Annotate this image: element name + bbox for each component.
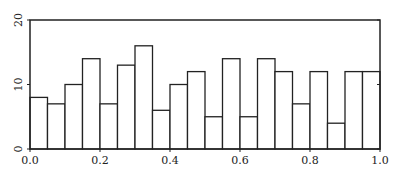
- histogram-bar: [258, 59, 276, 149]
- y-tick-label: 20: [12, 13, 25, 27]
- histogram-bar: [275, 72, 293, 149]
- x-tick-label: 1.0: [371, 154, 389, 167]
- histogram-bar: [65, 85, 83, 150]
- y-tick-label: 10: [12, 78, 25, 92]
- histogram-bar: [363, 72, 381, 149]
- histogram-bar: [118, 65, 136, 149]
- histogram-bars: [30, 46, 380, 149]
- histogram-bar: [345, 72, 363, 149]
- histogram-bar: [223, 59, 241, 149]
- x-tick-label: 0.4: [161, 154, 179, 167]
- histogram-bar: [170, 85, 188, 150]
- histogram-chart: 0.00.20.40.60.81.0 01020: [0, 0, 400, 173]
- histogram-bar: [293, 104, 311, 149]
- histogram-bar: [30, 97, 48, 149]
- histogram-bar: [240, 117, 258, 149]
- histogram-bar: [153, 110, 171, 149]
- histogram-bar: [310, 72, 328, 149]
- x-tick-label: 0.2: [91, 154, 109, 167]
- x-tick-label: 0.8: [301, 154, 319, 167]
- histogram-bar: [135, 46, 153, 149]
- histogram-bar: [100, 104, 118, 149]
- histogram-bar: [83, 59, 101, 149]
- x-tick-label: 0.6: [231, 154, 249, 167]
- histogram-bar: [205, 117, 223, 149]
- x-axis: 0.00.20.40.60.81.0: [21, 149, 389, 167]
- histogram-bar: [48, 104, 66, 149]
- y-tick-label: 0: [12, 146, 25, 153]
- histogram-bar: [188, 72, 206, 149]
- histogram-bar: [328, 123, 346, 149]
- x-tick-label: 0.0: [21, 154, 39, 167]
